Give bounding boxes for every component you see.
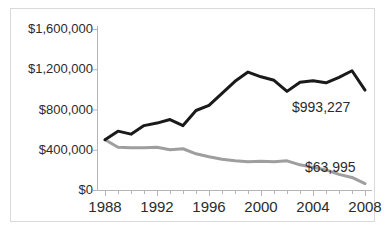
- x-axis-tick-label: 2000: [244, 199, 277, 214]
- black-series-end-label: $993,227: [292, 100, 350, 114]
- x-axis-tick-label: 1992: [140, 199, 173, 214]
- x-axis-tick-label: 2004: [296, 199, 329, 214]
- gray-series-end-label: $63,995: [305, 160, 356, 174]
- x-axis-tick-label: 1988: [88, 199, 121, 214]
- x-axis-tick-label: 1996: [192, 199, 225, 214]
- x-axis-tick-label: 2008: [348, 199, 381, 214]
- x-axis-tick-labels: 198819921996200020042008: [0, 0, 385, 232]
